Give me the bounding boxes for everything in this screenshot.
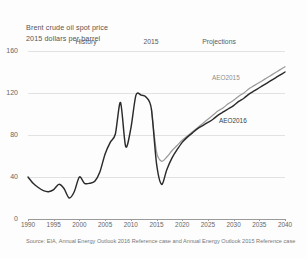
series-label-aeo2016: AEO2016 xyxy=(219,117,247,124)
chart-figure: Brent crude oil spot price 2015 dollars … xyxy=(0,0,307,259)
x-axis-tick-label-2015: 2015 xyxy=(149,221,163,228)
chart-plot-area xyxy=(28,51,285,219)
x-axis-tick-label-2005: 2005 xyxy=(98,221,112,228)
y-axis-tick-label-120: 120 xyxy=(0,89,18,96)
region-label-projections: Projections xyxy=(202,38,236,45)
x-axis-tick-label-2010: 2010 xyxy=(124,221,138,228)
y-axis-tick-label-160: 160 xyxy=(0,47,18,54)
y-axis-tick-label-40: 40 xyxy=(0,173,18,180)
chart-source-note: Source: EIA, Annual Energy Outlook 2016 … xyxy=(26,238,295,244)
x-axis-tick-label-2020: 2020 xyxy=(175,221,189,228)
region-label-split-year: 2015 xyxy=(143,38,158,45)
x-axis-tick-label-2025: 2025 xyxy=(201,221,215,228)
region-label-history: History xyxy=(75,38,96,45)
chart-title: Brent crude oil spot price xyxy=(26,22,108,33)
y-axis-tick-label-0: 0 xyxy=(0,215,18,222)
series-label-aeo2015: AEO2015 xyxy=(212,74,240,81)
x-axis-tick-label-2030: 2030 xyxy=(226,221,240,228)
x-axis-tick-label-1995: 1995 xyxy=(47,221,61,228)
y-axis-tick-label-80: 80 xyxy=(0,131,18,138)
x-axis-tick-label-2035: 2035 xyxy=(252,221,266,228)
chart-series-svg xyxy=(28,51,285,219)
x-axis-tick-label-1990: 1990 xyxy=(21,221,35,228)
x-axis-tick-label-2040: 2040 xyxy=(278,221,292,228)
x-axis-tick-label-2000: 2000 xyxy=(72,221,86,228)
